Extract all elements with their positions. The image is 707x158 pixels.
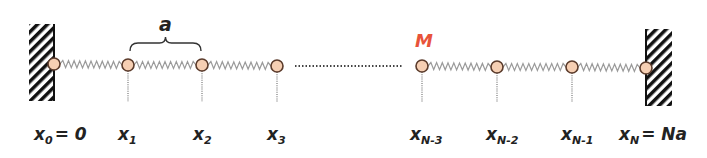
position-label-x2: x2 xyxy=(192,124,212,147)
chain-diagram: a M x0= 0x1x2x3xN-3xN-2xN-1xN= Na xyxy=(0,0,707,158)
position-label-xN-2: xN-2 xyxy=(485,124,519,147)
mass-x0 xyxy=(48,58,60,70)
mass-x2 xyxy=(196,59,208,71)
mass-xN-2 xyxy=(491,61,503,73)
position-label-x3: x3 xyxy=(266,124,286,147)
spring-icon xyxy=(503,64,566,71)
springs xyxy=(60,61,640,72)
spring-icon xyxy=(208,62,271,70)
spacing-brace: a xyxy=(130,13,201,51)
position-label-x0: x0= 0 xyxy=(33,124,87,147)
mass-xN-3 xyxy=(416,60,428,72)
mass-xN-1 xyxy=(566,61,578,73)
mass-label: M xyxy=(415,30,433,51)
brace-icon xyxy=(130,37,201,51)
mass-x3 xyxy=(271,60,283,72)
mass-x1 xyxy=(122,59,134,71)
position-label-x1: x1 xyxy=(117,124,137,147)
position-label-xN: xN= Na xyxy=(618,124,687,147)
position-label-xN-1: xN-1 xyxy=(560,124,593,147)
position-ticks xyxy=(128,71,572,102)
spring-icon xyxy=(428,63,491,71)
spring-icon xyxy=(578,64,640,72)
mass-xN xyxy=(640,62,652,74)
position-label-xN-3: xN-3 xyxy=(409,124,443,147)
spring-icon xyxy=(134,62,196,69)
spring-icon xyxy=(60,61,122,69)
position-labels: x0= 0x1x2x3xN-3xN-2xN-1xN= Na xyxy=(33,124,687,147)
spacing-label: a xyxy=(159,13,172,35)
